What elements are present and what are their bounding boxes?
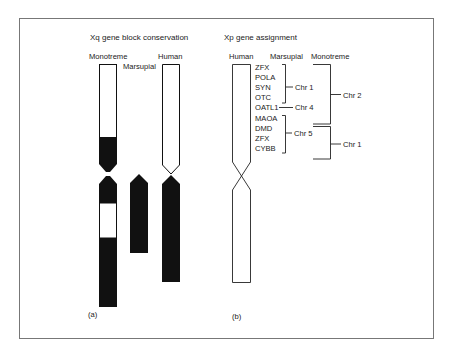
human-chromosome-a	[162, 65, 180, 283]
marsupial-brackets	[279, 65, 293, 154]
human-chromosome-b	[233, 65, 251, 283]
monotreme-chromosome	[99, 65, 117, 308]
marsupial-chromosome	[130, 174, 148, 253]
chromosome-diagram	[0, 0, 450, 360]
monotreme-brackets	[313, 65, 341, 160]
